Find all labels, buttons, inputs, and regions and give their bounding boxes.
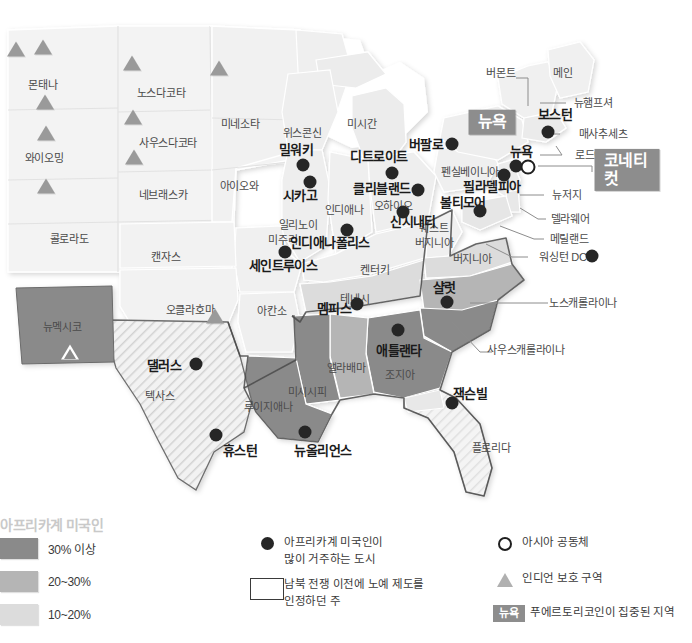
legend-swatch-label: 20~30%	[48, 575, 91, 589]
african-american-city-dot-icon	[397, 206, 410, 219]
indian-reservation-triangle-icon	[123, 56, 141, 71]
african-american-city-dot-icon	[299, 426, 312, 439]
outlined-rectangle-icon	[250, 578, 284, 600]
legend-swatch-row: 30% 이상	[0, 538, 96, 559]
african-american-city-dot-icon	[297, 159, 310, 172]
african-american-city-dot-icon	[412, 184, 425, 197]
legend-key-text: 아프리카계 미국인이많이 거주하는 도시	[284, 534, 383, 567]
african-american-city-dot-icon	[498, 169, 511, 182]
asian-community-ring-icon	[521, 160, 536, 175]
african-american-city-dot-icon	[304, 176, 317, 189]
african-american-city-dot-icon	[441, 296, 454, 309]
triangle-icon	[497, 573, 513, 587]
legend-key-line: 아시아 공동체	[522, 534, 589, 551]
legend-key-item: 아프리카계 미국인이많이 거주하는 도시	[250, 534, 383, 567]
filled-circle-icon	[261, 537, 274, 550]
legend-title: 아프리카계 미국인	[0, 514, 103, 534]
african-american-city-dot-icon	[341, 224, 354, 237]
legend-key-line: 인정하던 주	[284, 593, 424, 610]
legend-color-swatch	[0, 604, 38, 625]
indian-reservation-triangle-icon	[36, 95, 54, 110]
african-american-city-dot-icon	[542, 126, 555, 139]
legend-color-swatch	[0, 571, 38, 592]
indian-reservation-triangle-icon	[125, 150, 143, 165]
triangle-inner-fill	[64, 349, 76, 359]
legend-swatch-label: 30% 이상	[48, 540, 96, 557]
african-american-city-dot-icon	[190, 358, 203, 371]
indian-reservation-triangle-icon	[206, 309, 224, 324]
african-american-city-dot-icon	[279, 246, 292, 259]
indian-reservation-triangle-icon	[124, 110, 142, 125]
indian-reservation-triangle-icon	[37, 126, 55, 141]
hollow-circle-icon	[498, 537, 512, 551]
african-american-city-dot-icon	[586, 250, 599, 263]
legend-key-item: 인디언 보호 구역	[488, 570, 603, 587]
indian-reservation-triangle-icon	[37, 179, 55, 194]
legend-key-item: 아시아 공동체	[488, 534, 589, 551]
legend-key-text: 인디언 보호 구역	[522, 570, 603, 587]
legend-swatch-row: 10~20%	[0, 604, 91, 625]
legend-key-item: 뉴욕푸에르토리코인이 집중된 지역	[488, 604, 675, 622]
african-american-city-dot-icon	[446, 138, 459, 151]
legend-key-line: 아프리카계 미국인이	[284, 534, 383, 551]
legend-key-text: 푸에르토리코인이 집중된 지역	[530, 604, 675, 621]
legend-key-line: 남북 전쟁 이전에 노예 제도를	[284, 576, 424, 593]
legend-swatch-label: 10~20%	[48, 608, 91, 622]
legend-key-line: 푸에르토리코인이 집중된 지역	[530, 604, 675, 621]
legend-key-text: 남북 전쟁 이전에 노예 제도를인정하던 주	[284, 576, 424, 609]
indian-reservation-triangle-icon	[7, 42, 25, 57]
indian-reservation-triangle-icon	[34, 40, 52, 55]
legend-key-line: 많이 거주하는 도시	[284, 551, 383, 568]
map-legend: 아프리카계 미국인 30% 이상20~30%10~20% 아프리카계 미국인이많…	[0, 508, 692, 643]
legend-key-text: 아시아 공동체	[522, 534, 589, 551]
african-american-city-dot-icon	[386, 167, 399, 180]
african-american-city-dot-icon	[392, 324, 405, 337]
african-american-city-dot-icon	[474, 205, 487, 218]
legend-swatch-row: 20~30%	[0, 571, 91, 592]
indian-reservation-triangle-icon	[210, 61, 228, 76]
puerto-rican-area-badge: 뉴욕	[469, 110, 516, 135]
african-american-city-dot-icon	[446, 397, 459, 410]
legend-key-line: 인디언 보호 구역	[522, 570, 603, 587]
legend-key-item: 남북 전쟁 이전에 노예 제도를인정하던 주	[250, 576, 424, 609]
legend-color-swatch	[0, 538, 38, 559]
african-american-city-dot-icon	[351, 298, 364, 311]
gray-badge-icon: 뉴욕	[493, 605, 524, 622]
puerto-rican-area-badge: 코네티컷	[595, 149, 660, 191]
african-american-city-dot-icon	[210, 429, 223, 442]
